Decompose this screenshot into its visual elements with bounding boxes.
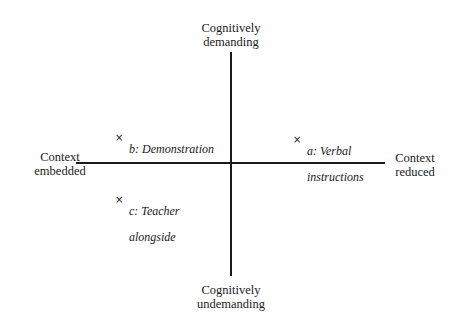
label-line: Context — [28, 150, 92, 164]
point-b-demonstration: × b: Demonstration — [115, 130, 214, 156]
label-line: Cognitively — [180, 21, 282, 35]
label-line: demanding — [180, 35, 282, 49]
point-label: a: Verbal instructions — [307, 132, 364, 184]
point-label: c: Teacher alongside — [129, 192, 180, 244]
point-label-line: alongside — [129, 230, 176, 244]
label-line: reduced — [382, 165, 448, 179]
point-label-line: b: Demonstration — [129, 142, 214, 156]
cross-marker-icon: × — [115, 131, 129, 144]
label-line: Context — [382, 151, 448, 165]
label-line: undemanding — [180, 297, 282, 311]
axis-label-cognitively-undemanding: Cognitively undemanding — [180, 283, 282, 311]
label-line: embedded — [28, 164, 92, 178]
point-label-line: a: Verbal — [307, 144, 351, 158]
point-a-verbal-instructions: × a: Verbal instructions — [293, 132, 364, 184]
axis-label-cognitively-demanding: Cognitively demanding — [180, 21, 282, 49]
cross-marker-icon: × — [293, 133, 307, 146]
axis-label-context-reduced: Context reduced — [382, 151, 448, 179]
point-label: b: Demonstration — [129, 130, 214, 156]
cross-marker-icon: × — [115, 193, 129, 206]
point-label-line: instructions — [307, 170, 364, 184]
axis-label-context-embedded: Context embedded — [28, 150, 92, 178]
point-c-teacher-alongside: × c: Teacher alongside — [115, 192, 180, 244]
point-label-line: c: Teacher — [129, 204, 180, 218]
label-line: Cognitively — [180, 283, 282, 297]
vertical-axis — [230, 52, 232, 276]
